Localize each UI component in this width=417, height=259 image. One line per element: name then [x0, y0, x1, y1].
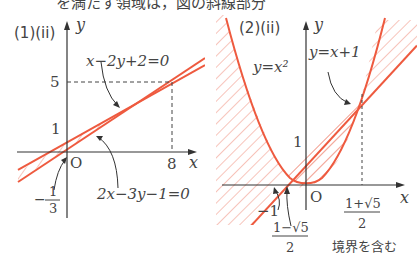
leader-arrow-head-neg1: [273, 187, 279, 194]
graph-2-label: (2)(ii): [239, 19, 280, 37]
tick-neg-third-num: 1: [49, 184, 57, 199]
tick-neg1: −1: [257, 202, 279, 220]
shaded-region-right: [362, 20, 417, 94]
origin-label-2: O: [310, 188, 322, 206]
origin-label-1: O: [70, 154, 82, 172]
x-axis-label-1: x: [189, 153, 198, 172]
x-axis-label-2: x: [400, 188, 409, 207]
tick-y1-graph2: 1: [293, 133, 303, 151]
tick-x8: 8: [167, 155, 177, 173]
tick-root-minus-num: 1−√5: [273, 220, 309, 235]
y-axis-arrow-2: [303, 21, 309, 30]
tick-y1: 1: [51, 120, 61, 138]
tick-neg-third-den: 3: [49, 201, 57, 216]
boundary-included-note: 境界を含む: [332, 236, 397, 255]
y-axis-label-2: y: [313, 15, 324, 34]
line-2x-3y-1: [18, 58, 205, 182]
leader-arrow-eq-bottom: [98, 137, 118, 188]
leader-arrow-line-eq: [328, 72, 348, 103]
equation-line-bottom: 2x−3y−1=0: [96, 185, 190, 203]
tick-neg-sign: −: [34, 191, 46, 207]
graphs-canvas: (1)(ii) y x O 8 5 1 − 1 3 x−2y+2=0 2x−3y…: [0, 0, 417, 259]
equation-parabola: y=x²: [252, 58, 289, 76]
tick-y5: 5: [50, 73, 60, 91]
equation-line: y=x+1: [308, 43, 361, 61]
tick-root-plus-num: 1+√5: [345, 196, 381, 211]
y-axis-label-1: y: [75, 15, 86, 34]
tick-root-minus-den: 2: [286, 240, 294, 255]
leader-arrow-head-line-eq: [344, 99, 351, 105]
graph-1: [18, 58, 205, 182]
graph-1-label: (1)(ii): [14, 24, 55, 42]
leader-arrow-head-neg-third: [61, 157, 67, 164]
tick-root-plus-den: 2: [358, 216, 366, 231]
equation-line-top: x−2y+2=0: [86, 52, 170, 70]
y-axis-arrow-1: [64, 21, 70, 30]
